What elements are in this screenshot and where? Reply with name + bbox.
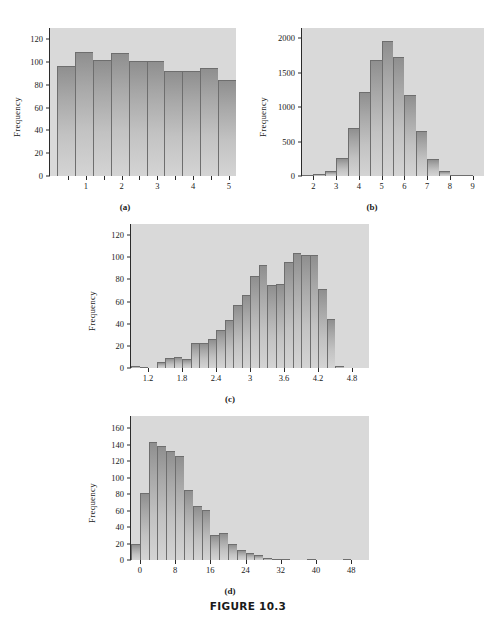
y-tick-label: 100 — [111, 473, 124, 482]
x-tick-mark — [404, 176, 405, 180]
x-tick-mark — [216, 368, 217, 372]
x-tick-label: 24 — [241, 566, 250, 575]
histogram-bar — [174, 357, 183, 368]
y-tick-label: 40 — [35, 126, 44, 135]
histogram-bar — [293, 253, 302, 368]
y-tick-label: 1000 — [278, 103, 295, 112]
x-tick-mark — [250, 368, 251, 372]
panel-d-caption: (d) — [85, 586, 375, 596]
histogram-bar — [184, 490, 193, 560]
x-tick-mark — [281, 560, 282, 564]
x-tick-label: 8 — [173, 566, 177, 575]
x-tick-label: 3.6 — [279, 374, 290, 383]
y-tick-label: 20 — [116, 539, 125, 548]
histogram-bar — [57, 66, 75, 176]
x-tick-label: 1.2 — [143, 374, 154, 383]
panel-c-caption: (c) — [85, 394, 375, 404]
y-tick-label: 100 — [111, 253, 124, 262]
panel-d-y-ticks: 020406080100120140160 — [89, 416, 131, 560]
histogram-bar — [225, 320, 234, 368]
histogram-bar — [237, 550, 246, 560]
y-tick-label: 80 — [35, 81, 44, 90]
histogram-bar — [370, 60, 381, 176]
histogram-bar — [166, 451, 175, 560]
histogram-bar — [310, 255, 319, 368]
histogram-bar — [216, 330, 225, 368]
y-tick-label: 120 — [111, 231, 124, 240]
panel-c-plot-area — [131, 224, 369, 368]
y-tick-label: 120 — [111, 457, 124, 466]
y-tick-label: 0 — [120, 556, 124, 565]
x-tick-label: 2 — [119, 182, 123, 191]
panel-d-x-ticks: 081624324048 — [131, 560, 369, 580]
x-tick-mark — [284, 368, 285, 372]
y-tick-label: 0 — [39, 172, 43, 181]
histogram-bar — [228, 544, 237, 560]
x-tick-mark-minor — [139, 176, 140, 180]
panel-c-x-ticks: 1.21.82.433.64.24.8 — [131, 368, 369, 388]
x-tick-mark — [246, 560, 247, 564]
y-tick-label: 40 — [116, 523, 125, 532]
x-tick-mark — [182, 368, 183, 372]
x-tick-label: 3 — [155, 182, 159, 191]
panel-c-y-axis-line — [130, 224, 131, 368]
histogram-bar — [140, 493, 149, 560]
panel-a-x-ticks: 12345 — [50, 176, 236, 196]
x-tick-mark — [86, 176, 87, 180]
x-tick-label: 4.2 — [313, 374, 324, 383]
x-tick-mark — [148, 368, 149, 372]
histogram-bar — [242, 295, 251, 368]
y-tick-label: 20 — [35, 149, 44, 158]
y-tick-label: 100 — [30, 58, 43, 67]
histogram-bar — [199, 343, 208, 368]
histogram-bar — [157, 446, 166, 560]
histogram-bar — [164, 71, 182, 176]
x-tick-mark — [193, 176, 194, 180]
x-tick-mark — [313, 176, 314, 180]
histogram-bar — [191, 343, 200, 368]
figure-caption: FIGURE 10.3 — [0, 600, 496, 612]
x-tick-label: 4 — [357, 182, 361, 191]
histogram-panel-b: Frequency 0500100015002000 23456789 (b) — [256, 22, 488, 212]
figure-page: Frequency 020406080100120 12345 (a) Freq… — [0, 0, 496, 632]
histogram-bar — [219, 533, 228, 560]
x-tick-mark — [122, 176, 123, 180]
x-tick-label: 1 — [84, 182, 88, 191]
histogram-panel-a: Frequency 020406080100120 12345 (a) — [10, 22, 240, 212]
panel-c-y-ticks: 020406080100120 — [89, 224, 131, 368]
x-tick-label: 32 — [277, 566, 286, 575]
y-tick-label: 60 — [116, 297, 125, 306]
y-tick-label: 80 — [116, 490, 125, 499]
histogram-bar — [149, 442, 158, 560]
histogram-bar — [359, 92, 370, 176]
x-tick-label: 9 — [471, 182, 475, 191]
histogram-bar — [210, 535, 219, 561]
y-tick-label: 160 — [111, 424, 124, 433]
x-tick-mark — [359, 176, 360, 180]
histogram-bar — [193, 506, 202, 560]
histogram-bar — [147, 61, 165, 176]
panel-a-y-ticks: 020406080100120 — [14, 28, 50, 176]
panel-a-y-axis-line — [49, 28, 50, 176]
y-tick-label: 2000 — [278, 34, 295, 43]
histogram-bar — [382, 41, 393, 176]
x-tick-label: 4 — [191, 182, 195, 191]
x-tick-label: 3 — [334, 182, 338, 191]
x-tick-mark-minor — [104, 176, 105, 180]
histogram-bar — [218, 80, 236, 176]
x-tick-mark — [351, 560, 352, 564]
histogram-bar — [250, 276, 259, 368]
histogram-bar — [202, 510, 211, 560]
x-tick-label: 5 — [380, 182, 384, 191]
y-tick-label: 40 — [116, 319, 125, 328]
x-tick-label: 1.8 — [177, 374, 188, 383]
panel-a-plot-area — [50, 28, 236, 176]
x-tick-mark — [450, 176, 451, 180]
histogram-bar — [233, 305, 242, 368]
x-tick-label: 4.8 — [347, 374, 358, 383]
x-tick-label: 8 — [448, 182, 452, 191]
x-tick-mark — [210, 560, 211, 564]
x-tick-mark — [352, 368, 353, 372]
histogram-bar — [75, 52, 93, 176]
x-tick-mark — [316, 560, 317, 564]
